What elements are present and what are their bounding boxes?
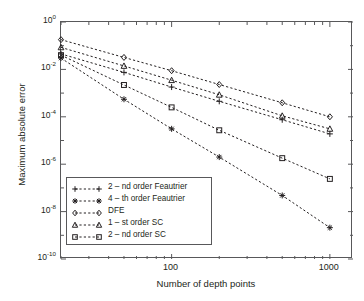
legend-label: 1 – st order SC <box>104 217 163 229</box>
data-marker-square <box>327 176 332 181</box>
y-axis-tick-label: 10-8 <box>41 206 56 215</box>
legend-item[interactable]: 4 – th order Feautrier <box>70 193 207 205</box>
x-axis-tick-label: 1000 <box>299 262 359 272</box>
data-marker-triangle <box>58 44 64 49</box>
data-marker-asterisk <box>216 154 222 160</box>
data-marker-asterisk <box>96 198 102 204</box>
y-tick-exponent: -2 <box>50 61 56 68</box>
series-4 <box>59 53 333 182</box>
series-0 <box>58 51 333 137</box>
legend-item[interactable]: 1 – st order SC <box>70 217 207 229</box>
data-marker-plus <box>216 98 222 104</box>
data-marker-plus <box>96 186 102 192</box>
y-tick-exponent: -4 <box>50 108 56 115</box>
legend-label: 2 – nd order SC <box>104 229 166 241</box>
figure-log-log-error-plot: 10010-210-410-610-810-10 Maximum absolut… <box>0 0 364 301</box>
legend-sample-diamond <box>70 205 104 217</box>
legend-sample-square <box>70 229 104 241</box>
series-line <box>61 55 330 179</box>
y-tick-mantissa: 10 <box>43 15 52 25</box>
legend-label: 2 – nd order Feautrier <box>104 181 187 193</box>
data-marker-square <box>122 83 127 88</box>
data-marker-asterisk <box>279 192 285 198</box>
legend-sample-plus <box>70 181 104 193</box>
data-marker-diamond <box>327 114 332 120</box>
data-marker-plus <box>327 131 333 137</box>
legend-item[interactable]: 2 – nd order Feautrier <box>70 181 207 193</box>
data-marker-plus <box>121 69 127 75</box>
data-marker-square <box>217 128 222 133</box>
x-axis-tick-label: 100 <box>141 262 201 272</box>
y-tick-exponent: 0 <box>53 13 56 20</box>
y-axis-tick-label: 10-4 <box>41 111 56 120</box>
y-tick-exponent: -8 <box>50 203 56 210</box>
data-marker-square <box>169 105 174 110</box>
series-2 <box>58 37 332 120</box>
data-marker-asterisk <box>169 126 175 132</box>
y-axis-tick-label: 10-6 <box>41 158 56 167</box>
y-axis-title: Maximum absolute error <box>16 60 27 210</box>
series-3 <box>58 44 333 131</box>
y-axis-tick-label: 10-2 <box>41 63 56 72</box>
legend-item[interactable]: 2 – nd order SC <box>70 229 207 241</box>
data-marker-asterisk <box>327 225 333 231</box>
legend-label: 4 – th order Feautrier <box>104 193 185 205</box>
data-marker-asterisk <box>121 96 127 102</box>
y-tick-mantissa: 10 <box>38 252 47 262</box>
legend: 2 – nd order Feautrier4 – th order Feaut… <box>66 177 212 245</box>
data-marker-asterisk <box>72 198 78 204</box>
data-marker-plus <box>169 84 175 90</box>
y-tick-exponent: -6 <box>50 155 56 162</box>
y-tick-exponent: -10 <box>47 250 56 257</box>
y-axis-tick-label-group: 10010-210-410-610-810-10 <box>0 0 56 301</box>
series-line <box>61 40 330 117</box>
legend-item[interactable]: DFE <box>70 205 207 217</box>
legend-label: DFE <box>104 205 124 217</box>
series-line <box>61 54 330 134</box>
y-axis-tick-label: 10-10 <box>38 253 56 262</box>
data-marker-plus <box>72 186 78 192</box>
legend-sample-asterisk <box>70 193 104 205</box>
x-axis-title: Number of depth points <box>60 278 352 289</box>
series-line <box>61 47 330 128</box>
y-axis-tick-label: 100 <box>43 16 56 25</box>
legend-sample-triangle <box>70 217 104 229</box>
